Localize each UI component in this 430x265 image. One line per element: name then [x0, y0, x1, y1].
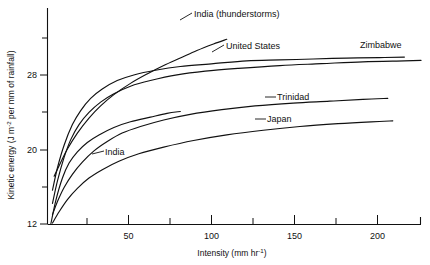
- x-tick-label-100: 100: [204, 231, 219, 241]
- y-tick-label-28: 28: [27, 70, 37, 80]
- series-label-india-thunderstorms: India (thunderstorms): [194, 9, 280, 19]
- y-axis-title-part2: per mm of rainfall): [6, 50, 16, 121]
- y-axis-title-part1: Kinetic energy (J m: [6, 127, 16, 200]
- x-axis-title-tail: ): [264, 248, 267, 258]
- x-axis-title-base: Intensity (mm hr: [197, 248, 258, 258]
- x-tick-label-50: 50: [123, 231, 133, 241]
- series-label-zimbabwe: Zimbabwe: [360, 40, 402, 50]
- series-label-india: India: [105, 147, 125, 157]
- series-label-japan: Japan: [267, 114, 292, 124]
- x-tick-label-150: 150: [287, 231, 302, 241]
- series-label-trinidad: Trinidad: [277, 92, 309, 102]
- series-label-united-states: United States: [226, 41, 281, 51]
- x-axis-title: Intensity (mm hr-1): [197, 247, 266, 259]
- y-tick-label-12: 12: [27, 219, 37, 229]
- x-tick-label-200: 200: [370, 231, 385, 241]
- y-tick-label-20: 20: [27, 145, 37, 155]
- kinetic-energy-intensity-chart: 28 20 12 50 100 150 200 Intensity (mm hr…: [0, 0, 430, 265]
